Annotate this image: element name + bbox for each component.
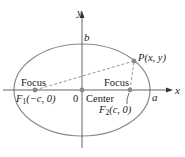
focus-2-label: F2(c, 0) [98,104,132,117]
semi-major-label: a [152,91,158,103]
f2-coords: (c, 0) [109,104,132,116]
focal-distance-line-2 [130,61,134,90]
center-point [80,88,85,93]
semi-minor-label: b [84,31,90,43]
focus-2-point [128,88,133,93]
center-label: Center [86,93,114,104]
x-axis-label: x [174,84,180,96]
y-axis-label: y [76,6,82,18]
f1-coords: (−c, 0) [26,93,56,105]
x-axis-arrow-icon [166,88,173,93]
diagram-svg: y x b a 0 Center P(x, y) Focus Focus F1(… [0,0,185,157]
origin-label: 0 [73,93,78,104]
focus-1-tag: Focus [21,77,46,88]
f2-pointer-line [127,93,129,104]
focus-1-point [33,88,38,93]
ellipse-diagram: y x b a 0 Center P(x, y) Focus Focus F1(… [0,0,185,157]
focus-1-label: F1(−c, 0) [15,93,56,106]
focus-2-tag: Focus [104,77,129,88]
point-p-label: P(x, y) [137,52,166,64]
point-p [132,59,137,64]
